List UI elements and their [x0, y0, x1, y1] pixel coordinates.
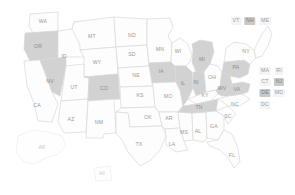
state-shape-NY[interactable]	[224, 42, 256, 64]
state-badge-NJ[interactable]: NJ	[274, 78, 284, 86]
state-shape-HI[interactable]	[94, 166, 112, 181]
state-badge-ME[interactable]: ME	[259, 17, 271, 25]
state-badge-DC[interactable]: DC	[259, 101, 270, 109]
us-state-map[interactable]: WAORCANVIDMTWYUTAZCONMNDSDNEKSOKTXMNIAMO…	[0, 0, 295, 195]
state-shape-AL[interactable]	[192, 112, 207, 142]
state-shapes-layer	[16, 12, 272, 181]
state-shape-AK[interactable]	[16, 130, 66, 164]
us-map-svg[interactable]	[0, 0, 295, 195]
state-shape-IA[interactable]	[149, 62, 176, 83]
state-shape-KS[interactable]	[120, 86, 155, 108]
state-shape-NE[interactable]	[118, 66, 153, 87]
state-shape-OR[interactable]	[24, 31, 58, 61]
state-shape-AR[interactable]	[159, 112, 180, 129]
state-badge-MD[interactable]: MD	[273, 89, 285, 97]
state-shape-WY[interactable]	[80, 47, 118, 77]
state-shape-ND[interactable]	[114, 17, 147, 47]
state-shape-CO[interactable]	[84, 74, 120, 101]
state-badge-RI[interactable]: RI	[274, 67, 283, 75]
state-shape-MN[interactable]	[147, 18, 173, 63]
state-badge-MA[interactable]: MA	[259, 67, 271, 75]
state-shape-WA[interactable]	[29, 12, 58, 33]
state-badge-DE[interactable]: DE	[259, 89, 270, 97]
state-badge-NH[interactable]: NH	[244, 17, 255, 25]
state-badge-CT[interactable]: CT	[260, 78, 271, 86]
state-shape-NM[interactable]	[86, 99, 116, 138]
state-shape-AZ[interactable]	[58, 99, 88, 133]
state-shape-new-england[interactable]	[254, 26, 272, 58]
state-badge-VT[interactable]: VT	[231, 17, 242, 25]
state-shape-WI[interactable]	[171, 38, 192, 66]
state-shape-SD[interactable]	[116, 45, 149, 68]
